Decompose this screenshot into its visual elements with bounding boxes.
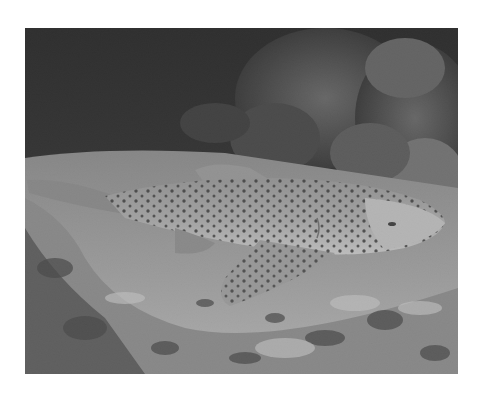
photo-illustration (25, 28, 458, 374)
shark-photo: Black and white underwater photograph of… (25, 28, 458, 374)
